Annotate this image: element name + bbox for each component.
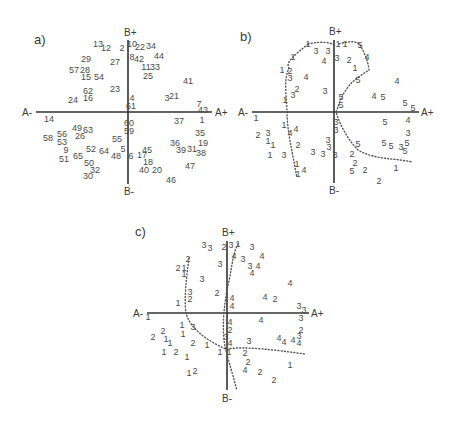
point-label: 1 — [145, 312, 150, 322]
point-label: 5 — [120, 144, 125, 154]
point-label: 1 — [267, 150, 272, 160]
panel-b: b) A- A+ B+ B- 1331151432412341542313545… — [238, 26, 434, 196]
panel-c-b-minus-label: B- — [222, 393, 232, 404]
point-label: 19 — [198, 138, 208, 148]
point-label: 3 — [201, 240, 206, 250]
point-label: 25 — [143, 71, 153, 81]
point-label: 59 — [124, 126, 134, 136]
point-label: 23 — [110, 84, 120, 94]
cluster-boundary — [286, 44, 308, 178]
point-label: 1 — [175, 298, 180, 308]
panel-c: c) A- A+ B+ B- 3323132434213341344321244… — [133, 224, 324, 404]
panel-b-b-plus-label: B+ — [329, 26, 342, 37]
point-label: 37 — [174, 116, 184, 126]
point-label: 4 — [262, 292, 267, 302]
point-label: 3 — [217, 259, 222, 269]
panel-c-label: c) — [135, 224, 146, 239]
point-label: 5 — [338, 100, 343, 110]
point-label: 1 — [279, 65, 284, 75]
panel-c-a-minus-label: A- — [133, 308, 143, 319]
point-label: 1 — [167, 338, 172, 348]
point-label: 5 — [402, 98, 407, 108]
panel-a-b-plus-label: B+ — [124, 27, 137, 38]
point-label: 5 — [410, 103, 415, 113]
point-label: 34 — [146, 41, 156, 51]
point-label: 48 — [111, 151, 121, 161]
point-label: 4 — [364, 52, 369, 62]
point-label: 4 — [301, 165, 306, 175]
point-label: 3 — [333, 125, 338, 135]
point-label: 51 — [59, 154, 69, 164]
point-label: 4 — [287, 278, 292, 288]
point-label: 22 — [135, 42, 145, 52]
panel-b-b-minus-label: B- — [329, 185, 339, 196]
point-label: 1 — [181, 269, 186, 279]
panel-a-a-minus-label: A- — [22, 107, 32, 118]
point-label: 2 — [190, 338, 195, 348]
point-label: 4 — [259, 251, 264, 261]
point-label: 3 — [249, 242, 254, 252]
point-label: 3 — [298, 313, 303, 323]
point-label: 3 — [332, 150, 337, 160]
point-label: 26 — [75, 131, 85, 141]
point-label: 16 — [83, 93, 93, 103]
point-label: 1 — [186, 368, 191, 378]
point-label: 4 — [371, 91, 376, 101]
point-label: 3 — [199, 274, 204, 284]
point-label: 65 — [73, 151, 83, 161]
point-label: 4 — [394, 76, 399, 86]
point-label: 35 — [195, 128, 205, 138]
point-label: 20 — [152, 165, 162, 175]
point-label: 4 — [229, 301, 234, 311]
point-label: 1 — [342, 39, 347, 49]
point-label: 1 — [335, 39, 340, 49]
point-label: 1 — [226, 347, 231, 357]
point-label: 52 — [86, 144, 96, 154]
panel-b-label: b) — [240, 29, 252, 44]
point-label: 3 — [310, 147, 315, 157]
point-label: 64 — [99, 146, 109, 156]
point-label: 4 — [296, 338, 301, 348]
point-label: 1 — [282, 95, 287, 105]
point-label: 4 — [287, 128, 292, 138]
point-label: 1 — [393, 163, 398, 173]
point-label: 5 — [381, 138, 386, 148]
point-label: 2 — [192, 366, 197, 376]
point-label: 5 — [349, 166, 354, 176]
point-label: 3 — [322, 86, 327, 96]
point-label: 1 — [290, 52, 295, 62]
point-label: 1 — [270, 140, 275, 150]
panel-b-a-plus-label: A+ — [421, 107, 434, 118]
point-label: 2 — [150, 332, 155, 342]
point-label: 2 — [221, 242, 226, 252]
point-label: 5 — [402, 146, 407, 156]
point-label: 15 — [81, 72, 91, 82]
point-label: 5 — [380, 92, 385, 102]
panel-a-label: a) — [34, 32, 46, 47]
point-label: 1 — [204, 340, 209, 350]
panel-a: a) A- A+ B+ B- 1312210223429278424457281… — [22, 27, 228, 197]
point-label: 4 — [249, 268, 254, 278]
point-label: 3 — [228, 240, 233, 250]
point-label: 3 — [287, 73, 292, 83]
point-label: 2 — [255, 130, 260, 140]
point-label: 2 — [175, 263, 180, 273]
point-label: 3 — [246, 336, 251, 346]
point-label: 54 — [94, 72, 104, 82]
point-label: 58 — [43, 133, 53, 143]
point-label: 4 — [255, 261, 260, 271]
cluster-boundary — [227, 348, 305, 354]
point-label: 1 — [295, 169, 300, 179]
point-label: 5 — [388, 141, 393, 151]
point-label: 3 — [320, 149, 325, 159]
point-label: 1 — [180, 329, 185, 339]
point-label: 2 — [346, 55, 351, 65]
point-label: 2 — [295, 140, 300, 150]
point-label: 1 — [294, 159, 299, 169]
point-label: 4 — [303, 72, 308, 82]
cluster-boundary — [185, 258, 228, 350]
point-label: 27 — [110, 57, 120, 67]
point-label: 30 — [83, 171, 93, 181]
point-label: 21 — [169, 91, 179, 101]
point-label: 1 — [161, 347, 166, 357]
